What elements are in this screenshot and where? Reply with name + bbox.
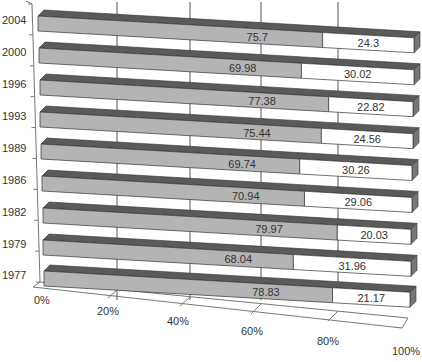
floor-left-edge [33,282,40,287]
x-tick-label: 0% [34,294,50,306]
category-label: 2004 [2,14,26,26]
data-label-series1: 75.7 [247,31,268,43]
data-label-series2: 20.03 [360,229,388,241]
data-label-series2: 21.17 [357,292,385,304]
data-label-series2: 29.06 [344,196,372,208]
data-label-series1: 75.44 [243,127,271,139]
category-label: 1977 [2,269,26,281]
x-tick-label: 40% [167,315,189,327]
category-label: 1979 [2,238,26,250]
data-label-series2: 22.82 [357,101,385,113]
category-label: 2000 [2,46,26,58]
data-label-series2: 24.3 [358,37,379,49]
category-label: 1993 [2,110,26,122]
bars: 75.724.3200469.9830.02200077.3822.821996… [2,10,420,307]
x-tick-label: 100% [392,345,420,357]
data-label-series1: 69.74 [228,158,256,170]
floor-right-edge [402,318,408,328]
floor-tick [328,311,338,321]
category-label: 1996 [2,78,26,90]
x-tick-label: 20% [97,305,119,317]
data-label-series1: 77.38 [248,95,276,107]
category-label: 1989 [2,142,26,154]
y-axis-line [32,4,40,282]
data-label-series2: 30.02 [344,68,372,80]
data-label-series1: 78.83 [252,286,280,298]
data-label-series1: 69.98 [229,62,257,74]
data-label-series2: 24.56 [353,133,381,145]
chart-canvas: 75.724.3200469.9830.02200077.3822.821996… [0,0,422,362]
data-label-series2: 31.96 [338,260,366,272]
x-tick-label: 80% [317,335,339,347]
data-label-series1: 70.94 [232,190,260,202]
category-label: 1982 [2,206,26,218]
data-label-series1: 79.97 [255,223,283,235]
data-label-series2: 30.26 [342,164,370,176]
stacked-bar-chart: 75.724.3200469.9830.02200077.3822.821996… [0,0,422,362]
floor-tick [108,290,117,298]
x-tick-label: 60% [241,325,263,337]
category-label: 1986 [2,174,26,186]
data-label-series1: 68.04 [225,253,253,265]
